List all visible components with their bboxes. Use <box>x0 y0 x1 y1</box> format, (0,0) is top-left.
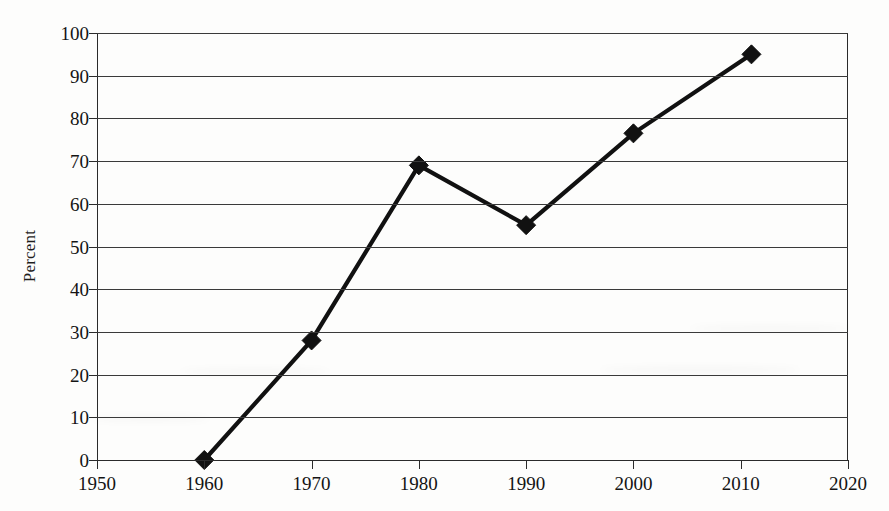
y-tick-label: 10 <box>43 408 89 427</box>
x-tick-mark <box>848 460 849 469</box>
x-tick-label: 1980 <box>400 474 438 493</box>
y-tick-mark <box>89 460 97 461</box>
x-tick-label: 1950 <box>78 474 116 493</box>
x-tick-label: 2000 <box>614 474 652 493</box>
gridline <box>97 118 848 119</box>
y-tick-label: 80 <box>43 109 89 128</box>
x-axis-tick-labels: 19501960197019801990200020102020 <box>97 460 848 472</box>
plot-area <box>97 33 848 460</box>
y-tick-mark <box>89 118 97 119</box>
x-tick-mark <box>419 460 420 469</box>
y-tick-label: 0 <box>43 451 89 470</box>
y-tick-label: 50 <box>43 237 89 256</box>
gridline <box>97 33 848 34</box>
y-axis-tick-labels: 0102030405060708090100 <box>34 0 89 511</box>
data-point-marker <box>409 156 428 175</box>
y-tick-label: 40 <box>43 280 89 299</box>
gridline <box>97 417 848 418</box>
y-tick-mark <box>89 161 97 162</box>
x-tick-mark <box>633 460 634 469</box>
gridline <box>97 161 848 162</box>
y-tick-label: 100 <box>43 24 89 43</box>
y-tick-label: 20 <box>43 365 89 384</box>
x-tick-mark <box>741 460 742 469</box>
y-tick-mark <box>89 76 97 77</box>
x-tick-label: 1970 <box>293 474 331 493</box>
x-tick-mark <box>526 460 527 469</box>
y-tick-mark <box>89 204 97 205</box>
gridline <box>97 204 848 205</box>
gridline <box>97 375 848 376</box>
y-tick-label: 70 <box>43 152 89 171</box>
y-tick-mark <box>89 417 97 418</box>
data-line <box>204 54 751 460</box>
y-tick-mark <box>89 332 97 333</box>
gridline <box>97 76 848 77</box>
x-tick-label: 2020 <box>829 474 867 493</box>
x-tick-label: 2010 <box>722 474 760 493</box>
x-tick-mark <box>312 460 313 469</box>
y-tick-label: 90 <box>43 66 89 85</box>
x-tick-mark <box>97 460 98 469</box>
x-tick-mark <box>204 460 205 469</box>
line-chart: Percent 0102030405060708090100 195019601… <box>0 0 889 511</box>
y-tick-mark <box>89 289 97 290</box>
gridline <box>97 289 848 290</box>
y-tick-label: 60 <box>43 194 89 213</box>
y-tick-mark <box>89 33 97 34</box>
x-tick-label: 1990 <box>507 474 545 493</box>
y-tick-mark <box>89 247 97 248</box>
gridline <box>97 332 848 333</box>
x-tick-label: 1960 <box>185 474 223 493</box>
gridline <box>97 247 848 248</box>
y-tick-mark <box>89 375 97 376</box>
y-tick-label: 30 <box>43 322 89 341</box>
